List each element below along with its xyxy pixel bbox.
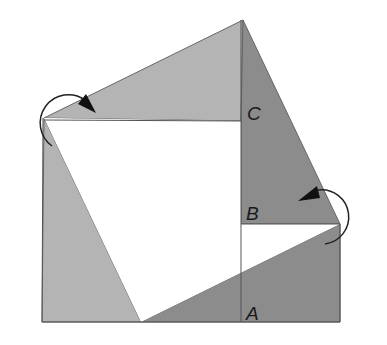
- label-c: C: [247, 103, 261, 124]
- label-a: A: [245, 303, 259, 324]
- label-b: B: [246, 203, 259, 224]
- pythagorean-diagram: C B A: [0, 0, 387, 345]
- top-left-triangle: [44, 20, 243, 121]
